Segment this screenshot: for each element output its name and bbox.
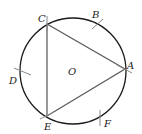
circle-diagram: C B A D O E F xyxy=(0,0,142,134)
label-e: E xyxy=(43,121,52,132)
label-d: D xyxy=(8,75,17,86)
tick-d xyxy=(14,68,31,75)
label-o: O xyxy=(68,66,76,77)
label-a: A xyxy=(126,60,134,71)
label-c: C xyxy=(38,13,46,24)
tick-b xyxy=(92,19,103,29)
label-b: B xyxy=(91,9,99,20)
label-f: F xyxy=(103,118,112,129)
triangle-ace xyxy=(47,24,125,116)
